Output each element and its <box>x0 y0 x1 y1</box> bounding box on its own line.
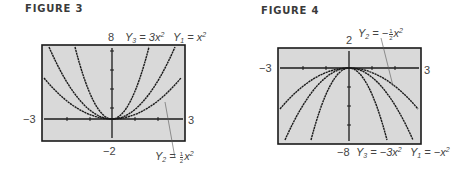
fig4-y2-equation: Y2 = −12x2 <box>358 27 403 41</box>
fig4-y1-rhs: = −x <box>424 146 445 158</box>
fig4-y3-sub: 3 <box>363 152 367 159</box>
fig4-y2-exp: 2 <box>399 27 403 34</box>
fig3-graph <box>42 45 185 158</box>
fig4-y3-exp: 2 <box>398 146 402 153</box>
fig4-y2-eq: = − <box>372 27 388 39</box>
fig4-xmin-label: −3 <box>259 62 272 74</box>
fig4-xmax-label: 3 <box>424 64 430 76</box>
fig4-y1-equation: Y1 = −x2 <box>410 146 450 159</box>
fig4-y3-equation: Y3 = −3x2 <box>356 146 402 159</box>
fig4-y2-den: 2 <box>389 35 392 41</box>
fig4-y2-num: 1 <box>389 28 392 35</box>
figure-4-title: FIGURE 4 <box>261 5 319 16</box>
fig4-ymin-label: −8 <box>337 146 350 158</box>
fig4-y2-fraction: 12 <box>389 28 392 41</box>
fig4-y3-rhs: = −3x <box>370 146 398 158</box>
fig4-graph <box>278 38 421 144</box>
figures-canvas <box>0 0 475 175</box>
fig4-y1-exp: 2 <box>446 146 450 153</box>
fig4-y1-sub: 1 <box>417 152 421 159</box>
fig4-y2-sub: 2 <box>365 33 369 40</box>
fig4-ymax-label: 2 <box>346 34 352 46</box>
